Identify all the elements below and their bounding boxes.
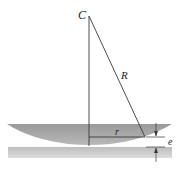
- label-gap-e: e: [168, 136, 173, 147]
- glass-plate: [8, 147, 172, 158]
- radius-R-line: [89, 16, 145, 137]
- newtons-rings-diagram: C R r e: [0, 0, 181, 172]
- label-radius-R: R: [120, 69, 128, 81]
- label-center-C: C: [78, 8, 87, 22]
- label-ring-radius-r: r: [115, 126, 119, 137]
